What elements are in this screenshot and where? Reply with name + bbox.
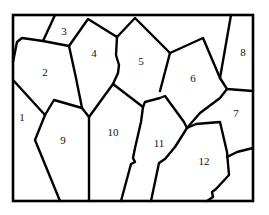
region-label-5: 5 (138, 56, 144, 67)
region-map (0, 0, 269, 215)
region-label-2: 2 (42, 67, 48, 78)
region-label-10: 10 (108, 127, 119, 138)
region-label-12: 12 (199, 156, 210, 167)
region-label-6: 6 (190, 73, 196, 84)
region-boundaries (13, 15, 253, 201)
region-label-7: 7 (233, 108, 239, 119)
region-label-4: 4 (91, 48, 97, 59)
region-label-9: 9 (60, 135, 66, 146)
region-label-1: 1 (19, 112, 25, 123)
region-label-3: 3 (61, 26, 67, 37)
region-label-8: 8 (240, 47, 246, 58)
region-label-11: 11 (154, 138, 165, 149)
